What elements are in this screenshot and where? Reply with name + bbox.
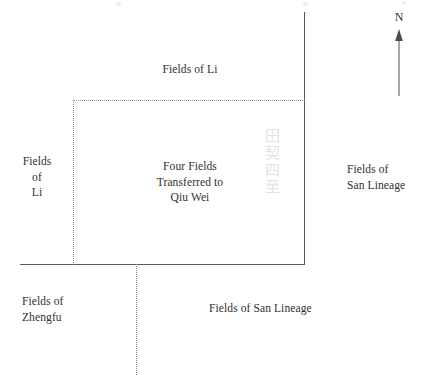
scan-speck [303, 2, 308, 6]
label-left-field: Fields of Li [8, 154, 66, 201]
compass-north-label: N [386, 10, 412, 25]
label-right-field: Fields of San Lineage [347, 162, 423, 193]
scan-speck [305, 12, 308, 15]
boundary-dotted-horizontal-north [73, 100, 305, 101]
scan-speck [402, 1, 406, 4]
boundary-dotted-vertical-west [73, 100, 74, 265]
boundary-dotted-vertical-south-divider [136, 264, 137, 375]
scan-bleed-through-artifact: 田契四至 [262, 128, 279, 196]
field-plot-diagram: 田契四至 Fields of Li Fields of Li Four Fiel… [0, 0, 424, 375]
boundary-solid-vertical-east [304, 12, 305, 265]
boundary-solid-horizontal-south [20, 264, 305, 265]
label-bottom-field: Fields of San Lineage [209, 301, 369, 317]
label-top-field: Fields of Li [130, 62, 250, 78]
north-arrow-icon [386, 28, 412, 96]
scan-speck [116, 2, 121, 6]
label-bottom-left-field: Fields of Zhengfu [22, 294, 122, 325]
compass-rose: N [386, 10, 412, 96]
label-center-plot: Four Fields Transferred to Qiu Wei [128, 159, 252, 206]
